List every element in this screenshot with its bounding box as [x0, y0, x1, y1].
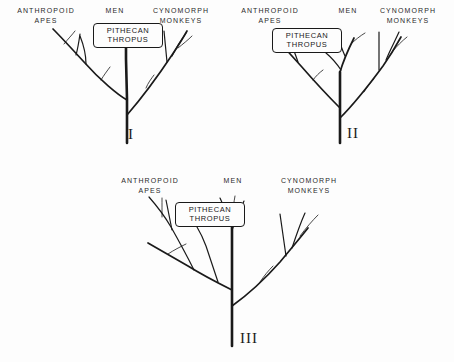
panel-2-numeral: II	[347, 125, 359, 142]
panel-1-trunk	[126, 46, 127, 143]
panel-3-tree-drawing	[100, 170, 360, 362]
panel-1-twig-ape-d	[101, 67, 110, 80]
panel-2-label-men: MEN	[327, 6, 369, 16]
panel-1-twig-ape-b	[76, 34, 80, 55]
panel-3-twig-ape-a	[166, 200, 172, 230]
phylogeny-panel-1: ANTHROPOID APES MEN CYNOMORPH MONKEYS PI…	[0, 0, 227, 160]
phylogeny-figure: ANTHROPOID APES MEN CYNOMORPH MONKEYS PI…	[0, 0, 454, 362]
panel-3-branch-apes	[148, 243, 232, 290]
panel-2-pithecanthropus-box: PITHECAN THROPUS	[272, 28, 342, 53]
panel-3-numeral: III	[240, 330, 258, 347]
panel-1-label-men: MEN	[94, 6, 136, 16]
panel-1-twig-monkey-b	[172, 33, 186, 56]
panel-2-label-cynomorph-monkeys: CYNOMORPH MONKEYS	[370, 6, 446, 25]
panel-3-branch-monkeys	[232, 228, 308, 306]
panel-3-pithecanthropus-box: PITHECAN THROPUS	[175, 202, 245, 227]
panel-2-label-anthropoid-apes: ANTHROPOID APES	[232, 6, 308, 25]
panel-3-twig-monkey-a	[280, 214, 286, 256]
phylogeny-panel-3: ANTHROPOID APES MEN CYNOMORPH MONKEYS PI…	[100, 170, 360, 362]
panel-1-pithecanthropus-box: PITHECAN THROPUS	[93, 23, 163, 48]
panel-2-fossil-connector	[326, 53, 341, 70]
panel-3-label-anthropoid-apes: ANTHROPOID APES	[110, 176, 190, 195]
panel-3-twig-monkey-d	[260, 266, 273, 282]
panel-1-twig-monkey-a	[164, 31, 167, 62]
phylogeny-panel-2: ANTHROPOID APES MEN CYNOMORPH MONKEYS	[227, 0, 454, 160]
panel-3-label-men: MEN	[212, 176, 254, 186]
panel-3-twig-monkey-b	[292, 213, 305, 248]
panel-1-numeral: I	[128, 126, 134, 143]
panel-1-label-anthropoid-apes: ANTHROPOID APES	[8, 6, 84, 25]
panel-2-twig-ape-d	[313, 70, 323, 80]
panel-1-twig-ape-c	[64, 31, 75, 44]
panel-3-label-cynomorph-monkeys: CYNOMORPH MONKEYS	[268, 176, 350, 195]
